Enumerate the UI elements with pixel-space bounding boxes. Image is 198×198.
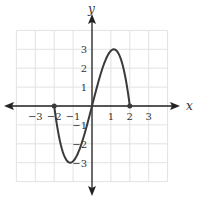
x-tick-label: −3 [28, 111, 43, 122]
x-axis-label: x [186, 99, 193, 113]
function-graph: −3−2−1123−3−2−1123 x y [0, 0, 198, 198]
y-tick-label: 1 [81, 82, 87, 93]
x-tick-label: 2 [127, 111, 133, 122]
endpoint-dot [127, 104, 132, 109]
x-tick-label: 1 [108, 111, 114, 122]
y-tick-label: 3 [81, 44, 87, 55]
endpoint-dot [52, 104, 57, 109]
x-tick-label: 3 [146, 111, 152, 122]
y-tick-label: −1 [72, 120, 87, 131]
y-tick-label: 2 [81, 63, 87, 74]
y-axis-label: y [87, 2, 95, 16]
